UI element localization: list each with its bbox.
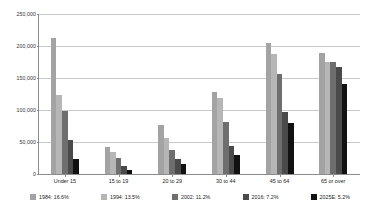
bar-group <box>199 14 253 174</box>
y-axis-labels: 250,000200,000150,000100,00050,0000 <box>0 0 36 206</box>
x-axis-category-label: 45 to 64 <box>253 178 307 188</box>
bar-group <box>306 14 360 174</box>
bar <box>234 155 240 174</box>
bar-group <box>92 14 146 174</box>
legend-swatch-icon <box>101 194 107 200</box>
legend-swatch-icon <box>243 194 249 200</box>
y-axis-tick-label: 150,000 <box>17 75 36 81</box>
legend-swatch-icon <box>30 194 36 200</box>
y-axis-tick-label: 100,000 <box>17 107 36 113</box>
legend-item[interactable]: 1994: 13.5% <box>101 194 140 200</box>
legend-item[interactable]: 2016: 7.2% <box>243 194 279 200</box>
x-axis-labels: Under 1515 to 1920 to 2930 to 4445 to 64… <box>38 178 360 188</box>
legend-label: 2002: 11.2% <box>181 194 210 200</box>
bar <box>288 123 294 174</box>
bar-groups <box>38 14 360 174</box>
x-axis-category-label: 65 or over <box>306 178 360 188</box>
legend-label: 2025E: 5.2% <box>320 194 350 200</box>
bar-chart: 250,000200,000150,000100,00050,0000 Unde… <box>0 0 365 206</box>
y-axis-tick-label: 250,000 <box>17 11 36 17</box>
chart-legend: 1984: 16.6%1994: 13.5%2002: 11.2%2016: 7… <box>30 191 350 203</box>
y-axis-tick-label: 50,000 <box>20 139 36 145</box>
legend-label: 1984: 16.6% <box>39 194 69 200</box>
bar <box>181 164 187 174</box>
legend-label: 2016: 7.2% <box>252 194 279 200</box>
x-axis-category-label: 30 to 44 <box>199 178 253 188</box>
legend-item[interactable]: 2025E: 5.2% <box>311 194 350 200</box>
x-axis-category-label: 15 to 19 <box>92 178 146 188</box>
bar <box>342 84 348 174</box>
bar-group <box>253 14 307 174</box>
bar-group <box>38 14 92 174</box>
legend-label: 1994: 13.5% <box>110 194 140 200</box>
x-axis-category-label: 20 to 29 <box>145 178 199 188</box>
y-axis-tick-label: 200,000 <box>17 43 36 49</box>
bar <box>73 159 79 174</box>
legend-item[interactable]: 1984: 16.6% <box>30 194 69 200</box>
x-axis-category-label: Under 15 <box>38 178 92 188</box>
legend-item[interactable]: 2002: 11.2% <box>172 194 210 200</box>
bar-group <box>145 14 199 174</box>
y-axis-tick-label: 0 <box>33 171 36 177</box>
legend-swatch-icon <box>172 194 178 200</box>
legend-swatch-icon <box>311 194 317 200</box>
